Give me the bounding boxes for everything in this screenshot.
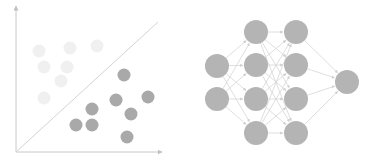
hidden-node-layer2 — [284, 87, 308, 111]
connection-edge — [265, 107, 286, 125]
hidden-node-layer1 — [244, 53, 268, 77]
connection-edge — [226, 107, 246, 125]
dark-data-point — [142, 91, 155, 104]
light-data-point — [33, 45, 46, 58]
scatter-plot — [16, 6, 162, 152]
decision-boundary — [16, 22, 158, 152]
hidden-node-layer2 — [284, 53, 308, 77]
connection-edge — [226, 41, 246, 59]
dark-data-point — [86, 103, 99, 116]
connection-edge — [305, 40, 338, 72]
diagram-canvas — [0, 0, 372, 163]
hidden-node-layer1 — [244, 121, 268, 145]
connection-edge — [265, 107, 286, 125]
connection-edge — [304, 91, 337, 124]
light-data-point — [38, 61, 51, 74]
hidden-node-layer1 — [244, 87, 268, 111]
output-node — [335, 70, 359, 94]
input-node — [205, 54, 229, 78]
connection-edge — [265, 40, 286, 57]
dark-data-point — [70, 119, 83, 132]
light-data-point — [91, 40, 104, 53]
dark-data-point — [110, 94, 123, 107]
dark-data-point — [121, 131, 134, 144]
light-data-point — [64, 42, 77, 55]
connection-edge — [307, 69, 334, 78]
hidden-node-layer1 — [244, 20, 268, 44]
neural-network-diagram — [205, 20, 359, 145]
dark-data-point — [118, 69, 131, 82]
hidden-node-layer2 — [284, 20, 308, 44]
connection-edge — [265, 73, 286, 91]
dark-data-point — [86, 119, 99, 132]
hidden-node-layer2 — [284, 121, 308, 145]
light-data-point — [61, 61, 74, 74]
light-data-point — [55, 75, 68, 88]
connection-edge — [307, 86, 334, 95]
light-data-point — [38, 92, 51, 105]
input-node — [205, 87, 229, 111]
dark-data-point — [125, 108, 138, 121]
